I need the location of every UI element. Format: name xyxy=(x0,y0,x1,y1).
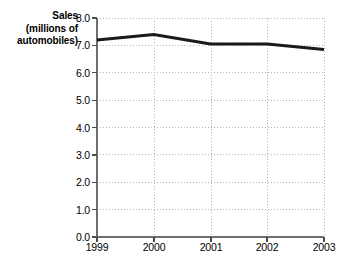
x-tick-label-2000: 2000 xyxy=(132,241,176,253)
sales-line-chart: Sales (millions of automobiles) 8.0 7.0 … xyxy=(0,0,342,267)
y-axis-ticks xyxy=(92,18,97,237)
x-tick-label-2003: 2003 xyxy=(302,241,342,253)
plot-area xyxy=(0,0,342,267)
x-tick-label-1999: 1999 xyxy=(75,241,119,253)
x-tick-label-2002: 2002 xyxy=(245,241,289,253)
x-axis-tick-labels: 1999 2000 2001 2002 2003 xyxy=(0,241,342,261)
x-tick-label-2001: 2001 xyxy=(189,241,233,253)
